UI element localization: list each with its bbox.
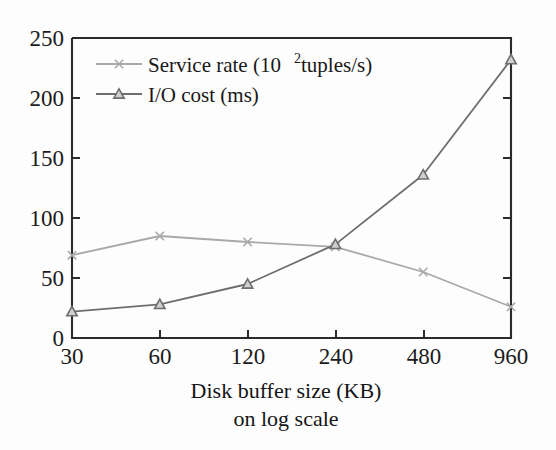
- y-tick-marks: [72, 38, 511, 338]
- legend-label-service-rate: Service rate (10: [148, 53, 281, 77]
- y-tick-label-50: 50: [41, 266, 64, 291]
- x-tick-label-960: 960: [494, 344, 529, 369]
- legend-label-service-rate-exponent: 2: [294, 51, 301, 66]
- line-chart: 0 50 100 150 200 250 30 60 120 240 480 9…: [0, 0, 556, 450]
- legend-entry-service-rate[interactable]: Service rate (10 2 tuples/s): [96, 51, 372, 77]
- x-axis-title: Disk buffer size (KB): [191, 378, 382, 403]
- legend-label-service-rate-tail: tuples/s): [301, 53, 372, 77]
- y-tick-label-250: 250: [30, 26, 65, 51]
- legend-entry-io-cost[interactable]: I/O cost (ms): [96, 83, 259, 107]
- legend: Service rate (10 2 tuples/s) I/O cost (m…: [96, 51, 372, 107]
- x-axis-title-line2: on log scale: [233, 406, 338, 431]
- plot-frame: [72, 38, 511, 338]
- x-tick-label-240: 240: [319, 344, 354, 369]
- chart-figure: 0 50 100 150 200 250 30 60 120 240 480 9…: [0, 0, 556, 450]
- x-tick-label-120: 120: [231, 344, 266, 369]
- series-line-io-cost: [72, 60, 511, 312]
- legend-label-io-cost: I/O cost (ms): [148, 83, 259, 107]
- y-tick-label-150: 150: [30, 146, 65, 171]
- x-tick-label-30: 30: [61, 344, 84, 369]
- x-tick-marks: [160, 330, 424, 338]
- series-line-service-rate: [72, 236, 511, 307]
- y-tick-label-100: 100: [30, 206, 65, 231]
- y-tick-label-200: 200: [30, 86, 65, 111]
- x-tick-label-480: 480: [407, 344, 442, 369]
- x-tick-label-60: 60: [149, 344, 172, 369]
